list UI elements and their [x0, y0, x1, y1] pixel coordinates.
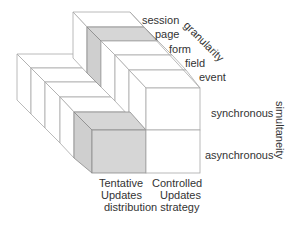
granularity-level-page: page	[155, 28, 179, 40]
simultaneity-level-synchronous: synchronous	[211, 107, 274, 119]
strategy-controlled-line2: Updates	[160, 189, 201, 201]
granularity-level-event: event	[199, 71, 226, 83]
granularity-level-session: session	[142, 14, 179, 26]
controlled-column	[146, 88, 200, 173]
synchronous-cell	[146, 88, 200, 130]
granularity-level-form: form	[169, 43, 191, 55]
front-highlighted-cube	[74, 112, 146, 173]
simultaneity-level-asynchronous: asynchronous	[205, 149, 274, 161]
simultaneity-axis-label: simultaneity	[274, 101, 286, 160]
front-cube-front-face	[92, 130, 146, 173]
strategy-controlled-line1: Controlled	[152, 177, 202, 189]
asynchronous-cell	[146, 130, 200, 173]
distribution-strategy-axis-label: distribution strategy	[104, 201, 200, 213]
strategy-tentative-line1: Tentative	[99, 177, 143, 189]
strategy-tentative-line2: Updates	[101, 189, 142, 201]
granularity-level-field: field	[185, 57, 205, 69]
taxonomy-cube-diagram: session page form field event granularit…	[0, 0, 301, 226]
